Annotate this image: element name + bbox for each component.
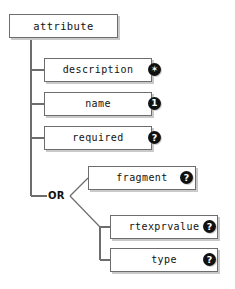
or-diagonal-upper	[70, 178, 88, 196]
question-badge-glyph: ?	[152, 133, 158, 143]
node-required[interactable]: required	[44, 126, 152, 150]
node-rtexprvalue[interactable]: rtexprvalue	[110, 215, 218, 239]
node-name-label: name	[85, 99, 111, 109]
question-badge-icon-type: ?	[203, 253, 216, 266]
node-type-label: type	[151, 255, 177, 265]
question-badge-icon-rtexprvalue: ?	[203, 220, 216, 233]
question-badge-icon-required: ?	[148, 131, 161, 144]
one-badge-glyph: 1	[151, 99, 157, 108]
or-diagonal-lower	[70, 196, 100, 227]
node-type[interactable]: type	[110, 248, 218, 272]
question-badge-glyph: ?	[184, 173, 190, 183]
question-badge-glyph: ?	[207, 222, 213, 232]
node-fragment-label: fragment	[116, 173, 167, 183]
one-badge-icon: 1	[148, 97, 161, 110]
schema-diagram-canvas: attribute description ✶ name 1 required …	[0, 0, 235, 289]
or-junction-label: OR	[47, 191, 66, 201]
question-badge-icon-fragment: ?	[180, 171, 193, 184]
node-attribute-label: attribute	[33, 21, 94, 32]
node-description[interactable]: description	[44, 58, 152, 82]
node-description-label: description	[63, 65, 134, 75]
node-attribute[interactable]: attribute	[9, 14, 118, 38]
node-required-label: required	[72, 133, 123, 143]
node-name[interactable]: name	[44, 92, 152, 116]
node-rtexprvalue-label: rtexprvalue	[129, 222, 200, 232]
star-badge-glyph: ✶	[151, 65, 159, 74]
star-badge-icon: ✶	[148, 63, 161, 76]
question-badge-glyph: ?	[207, 255, 213, 265]
